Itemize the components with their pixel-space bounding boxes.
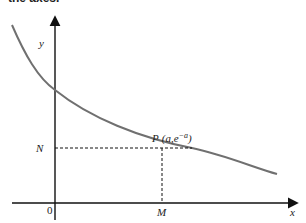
decay-curve: [12, 25, 277, 174]
n-label: N: [35, 142, 44, 154]
origin-label: 0: [47, 204, 53, 216]
point-p-label: P(a,e−a): [151, 131, 192, 145]
exponential-graph: y x 0 M N P(a,e−a): [0, 0, 306, 223]
x-axis-label: x: [289, 206, 295, 218]
m-label: M: [156, 206, 167, 218]
y-axis-label: y: [38, 37, 44, 49]
